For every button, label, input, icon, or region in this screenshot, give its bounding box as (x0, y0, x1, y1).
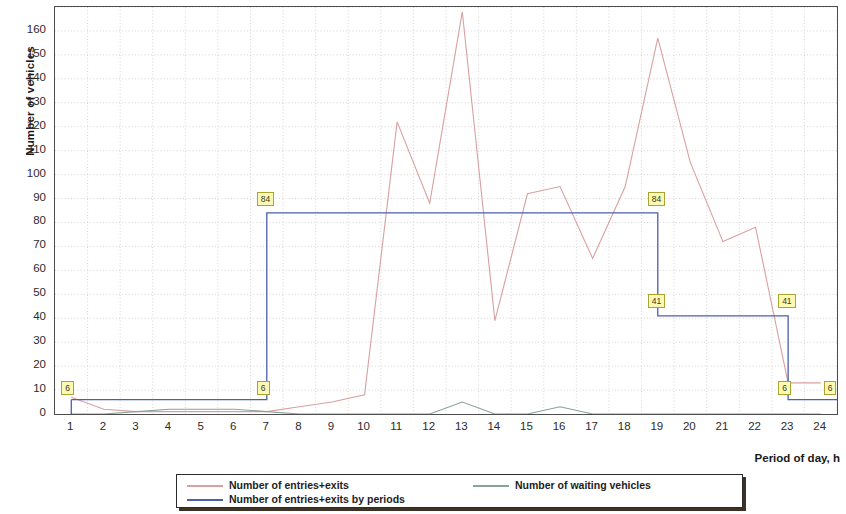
x-tick-label: 8 (285, 420, 311, 432)
series-line-2 (71, 213, 837, 414)
x-tick-label: 7 (253, 420, 279, 432)
y-tick-label: 130 (2, 95, 46, 107)
legend-label: Number of entries+exits by periods (229, 492, 405, 507)
y-tick-label: 90 (2, 191, 46, 203)
legend-swatch (187, 485, 223, 487)
legend-swatch (473, 485, 509, 487)
y-tick-label: 110 (2, 143, 46, 155)
y-tick-label: 120 (2, 119, 46, 131)
legend-swatch (187, 499, 223, 501)
x-axis-title: Period of day, h (700, 452, 840, 464)
data-callout: 84 (648, 192, 665, 206)
x-tick-label: 11 (383, 420, 409, 432)
x-tick-label: 2 (90, 420, 116, 432)
y-tick-label: 140 (2, 71, 46, 83)
x-tick-label: 22 (742, 420, 768, 432)
plot-area (54, 6, 838, 415)
x-tick-label: 17 (579, 420, 605, 432)
x-tick-label: 19 (644, 420, 670, 432)
legend-label: Number of waiting vehicles (515, 478, 651, 493)
x-tick-label: 18 (611, 420, 637, 432)
y-tick-label: 80 (2, 214, 46, 226)
y-tick-label: 30 (2, 334, 46, 346)
data-callout: 84 (257, 192, 274, 206)
y-tick-label: 40 (2, 310, 46, 322)
y-tick-label: 0 (2, 406, 46, 418)
x-tick-label: 23 (774, 420, 800, 432)
y-tick-label: 20 (2, 358, 46, 370)
data-callout: 6 (61, 381, 74, 395)
x-tick-label: 24 (807, 420, 833, 432)
x-tick-label: 4 (155, 420, 181, 432)
y-tick-label: 100 (2, 167, 46, 179)
x-tick-label: 3 (122, 420, 148, 432)
x-tick-label: 9 (318, 420, 344, 432)
x-tick-label: 16 (546, 420, 572, 432)
chart-canvas (55, 7, 837, 414)
x-tick-label: 21 (709, 420, 735, 432)
legend-label: Number of entries+exits (229, 478, 349, 493)
x-tick-label: 12 (416, 420, 442, 432)
grid-lines (55, 7, 837, 414)
data-callout: 41 (778, 294, 795, 308)
y-tick-label: 50 (2, 286, 46, 298)
x-tick-label: 5 (188, 420, 214, 432)
data-callout: 6 (257, 381, 270, 395)
chart-legend: Number of entries+exits Number of entrie… (176, 474, 743, 508)
data-callout: 6 (778, 381, 791, 395)
data-callout: 41 (648, 294, 665, 308)
x-tick-label: 10 (351, 420, 377, 432)
y-tick-label: 70 (2, 238, 46, 250)
x-tick-label: 1 (57, 420, 83, 432)
y-tick-label: 150 (2, 47, 46, 59)
y-tick-label: 10 (2, 382, 46, 394)
y-tick-label: 60 (2, 262, 46, 274)
x-tick-label: 14 (481, 420, 507, 432)
y-tick-label: 160 (2, 23, 46, 35)
x-tick-label: 13 (448, 420, 474, 432)
chart-page: Number of vehicles Period of day, h 0102… (0, 0, 846, 514)
x-tick-label: 15 (513, 420, 539, 432)
x-tick-label: 6 (220, 420, 246, 432)
x-tick-label: 20 (676, 420, 702, 432)
data-callout: 6 (824, 381, 837, 395)
